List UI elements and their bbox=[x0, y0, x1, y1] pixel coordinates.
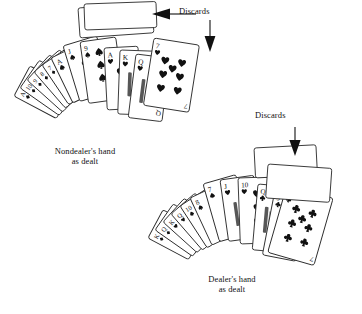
discards-left-down-arrow-icon bbox=[205, 20, 216, 52]
discards-label-left: Discards bbox=[179, 6, 210, 16]
svg-text:10: 10 bbox=[241, 181, 249, 189]
dealer-caption-line1: Dealer's hand bbox=[186, 274, 278, 284]
dealer-caption-line2: as dealt bbox=[186, 284, 278, 294]
nondealer-caption-line2: as dealt bbox=[39, 156, 131, 166]
nondealer-hand-fan: A 10 9 bbox=[14, 1, 199, 121]
nondealer-caption-line1: Nondealer's hand bbox=[39, 146, 131, 156]
card-diagram: A 10 9 bbox=[0, 0, 362, 314]
discards-label-right: Discards bbox=[255, 110, 286, 120]
dealer-hand-fan: K Q K bbox=[148, 145, 333, 266]
dealer-discard-back-card-2 bbox=[266, 164, 332, 202]
nondealer-discard-back-card-2 bbox=[84, 1, 157, 29]
nondealer-discard-pile: 7 7 bbox=[143, 38, 199, 112]
